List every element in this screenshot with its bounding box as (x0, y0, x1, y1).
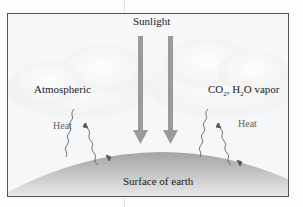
diagram-graphics (8, 14, 288, 196)
gases-label: CO2, H2O vapor (208, 83, 279, 98)
heat-label-left: Heat (53, 120, 72, 131)
surface-label: Surface of earth (123, 175, 193, 187)
earth-surface (8, 152, 288, 196)
greenhouse-diagram: Sunlight Atmospheric CO2, H2O vapor Heat… (7, 13, 289, 197)
sunlight-label: Sunlight (133, 15, 170, 27)
atmospheric-label: Atmospheric (34, 83, 91, 95)
heat-label-right: Heat (238, 118, 257, 129)
cloud-left (8, 44, 150, 119)
